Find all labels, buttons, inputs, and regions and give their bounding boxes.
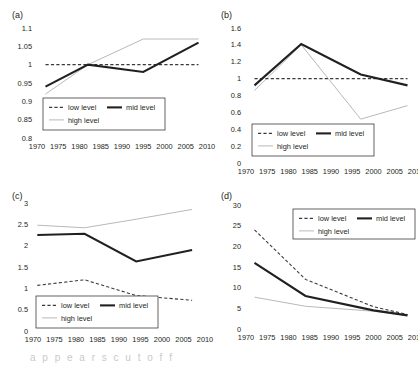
x-axis-tick-label: 1995 bbox=[132, 335, 148, 344]
x-axis-tick-label: 2000 bbox=[365, 333, 381, 342]
y-axis-tick-label: 0.6 bbox=[231, 108, 241, 117]
x-axis-tick-label: 1985 bbox=[93, 142, 109, 151]
bottom-caption-text: a p p e a r s c u t o f f bbox=[30, 352, 418, 363]
x-axis-tick-label: 1990 bbox=[114, 142, 130, 151]
legend-label-high: high level bbox=[277, 142, 309, 151]
plot-area-b: 1.61.41.210.80.60.40.2019701975198019851… bbox=[209, 0, 418, 183]
x-axis-tick-label: 2005 bbox=[387, 333, 403, 342]
x-axis-tick-label: 1970 bbox=[238, 167, 254, 176]
chart-panel-c: (c) 32.521.510.5019701975198019851990199… bbox=[0, 183, 209, 366]
figure-panel-grid: (a) 1.11.0510.950.90.850.819701975198019… bbox=[0, 0, 418, 366]
legend-label-high: high level bbox=[68, 116, 100, 125]
x-axis-tick-label: 1975 bbox=[259, 333, 275, 342]
series-line-high bbox=[37, 209, 192, 227]
x-axis-tick-label: 1990 bbox=[323, 167, 339, 176]
x-axis-tick-label: 1975 bbox=[50, 142, 66, 151]
x-axis-tick-label: 1985 bbox=[302, 167, 318, 176]
x-axis-tick-label: 1995 bbox=[344, 333, 360, 342]
x-axis-tick-label: 2000 bbox=[156, 142, 172, 151]
x-axis-tick-label: 1975 bbox=[46, 335, 62, 344]
y-axis-tick-label: 1 bbox=[237, 74, 241, 83]
x-axis-tick-label: 1980 bbox=[71, 142, 87, 151]
x-axis-tick-label: 1975 bbox=[259, 167, 275, 176]
y-axis-tick-label: 1.05 bbox=[18, 42, 32, 51]
y-axis-tick-label: 20 bbox=[233, 242, 241, 251]
y-axis-tick-label: 30 bbox=[233, 201, 241, 210]
y-axis-tick-label: 2 bbox=[24, 241, 28, 250]
x-axis-tick-label: 2005 bbox=[178, 142, 194, 151]
y-axis-tick-label: 1.5 bbox=[18, 263, 28, 272]
y-axis-tick-label: 1.4 bbox=[231, 40, 241, 49]
x-axis-tick-label: 1985 bbox=[302, 333, 318, 342]
y-axis-tick-label: 15 bbox=[233, 263, 241, 272]
legend-label-low: low level bbox=[277, 129, 306, 138]
y-axis-tick-label: 0.85 bbox=[18, 115, 32, 124]
legend-label-mid: mid level bbox=[335, 129, 365, 138]
legend-label-mid: mid level bbox=[376, 214, 406, 223]
legend-label-high: high level bbox=[61, 314, 93, 323]
x-axis-tick-label: 2000 bbox=[365, 167, 381, 176]
y-axis-tick-label: 2.5 bbox=[18, 220, 28, 229]
y-axis-tick-label: 10 bbox=[233, 283, 241, 292]
series-line-mid bbox=[37, 234, 192, 262]
y-axis-tick-label: 1.6 bbox=[231, 24, 241, 33]
y-axis-tick-label: 1.2 bbox=[231, 57, 241, 66]
x-axis-tick-label: 2000 bbox=[154, 335, 170, 344]
x-axis-tick-label: 1980 bbox=[68, 335, 84, 344]
x-axis-tick-label: 1980 bbox=[280, 333, 296, 342]
legend-label-low: low level bbox=[318, 214, 347, 223]
x-axis-tick-label: 1995 bbox=[135, 142, 151, 151]
plot-area-c: 32.521.510.50197019751980198519901995200… bbox=[0, 183, 209, 366]
y-axis-tick-label: 5 bbox=[237, 304, 241, 313]
x-axis-tick-label: 2010 bbox=[408, 167, 418, 176]
x-axis-tick-label: 2005 bbox=[175, 335, 191, 344]
legend-label-mid: mid level bbox=[119, 301, 149, 310]
y-axis-tick-label: 3 bbox=[24, 199, 28, 208]
y-axis-tick-label: 0.2 bbox=[231, 142, 241, 151]
y-axis-tick-label: 1 bbox=[28, 60, 32, 69]
y-axis-tick-label: 0.9 bbox=[22, 97, 32, 106]
legend-label-mid: mid level bbox=[126, 103, 156, 112]
y-axis-tick-label: 1 bbox=[24, 284, 28, 293]
bottom-caption-cutoff: a p p e a r s c u t o f f bbox=[0, 352, 418, 366]
plot-area-a: 1.11.0510.950.90.850.8197019751980198519… bbox=[0, 0, 209, 183]
x-axis-tick-label: 1970 bbox=[238, 333, 254, 342]
x-axis-tick-label: 1990 bbox=[323, 333, 339, 342]
y-axis-tick-label: 25 bbox=[233, 221, 241, 230]
x-axis-tick-label: 1995 bbox=[344, 167, 360, 176]
series-line-high bbox=[255, 45, 408, 119]
y-axis-tick-label: 0.5 bbox=[18, 305, 28, 314]
x-axis-tick-label: 1985 bbox=[89, 335, 105, 344]
y-axis-tick-label: 1.1 bbox=[22, 24, 32, 33]
x-axis-tick-label: 1990 bbox=[111, 335, 127, 344]
x-axis-tick-label: 2010 bbox=[408, 333, 418, 342]
chart-panel-a: (a) 1.11.0510.950.90.850.819701975198019… bbox=[0, 0, 209, 183]
x-axis-tick-label: 1980 bbox=[280, 167, 296, 176]
chart-panel-d: (d) 302520151050197019751980198519901995… bbox=[209, 183, 418, 366]
legend-label-low: low level bbox=[61, 301, 90, 310]
x-axis-tick-label: 1970 bbox=[29, 142, 45, 151]
legend-label-high: high level bbox=[318, 227, 350, 236]
x-axis-tick-label: 2005 bbox=[387, 167, 403, 176]
series-line-high bbox=[46, 39, 199, 94]
chart-panel-b: (b) 1.61.41.210.80.60.40.201970197519801… bbox=[209, 0, 418, 183]
y-axis-tick-label: 0.8 bbox=[231, 91, 241, 100]
y-axis-tick-label: 0.95 bbox=[18, 79, 32, 88]
x-axis-tick-label: 1970 bbox=[25, 335, 41, 344]
plot-area-d: 3025201510501970197519801985199019952000… bbox=[209, 183, 418, 366]
legend-label-low: low level bbox=[68, 103, 97, 112]
y-axis-tick-label: 0.4 bbox=[231, 125, 241, 134]
